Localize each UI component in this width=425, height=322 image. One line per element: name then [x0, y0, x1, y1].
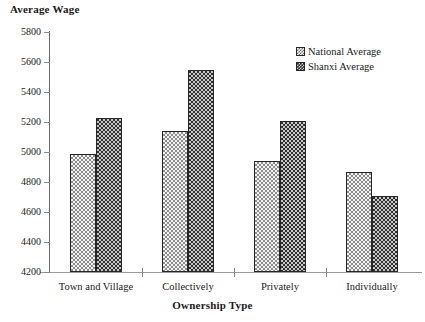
y-axis-title: Average Wage [10, 3, 80, 15]
bar [96, 118, 122, 273]
y-axis-tick-label: 5400 [3, 87, 41, 97]
y-axis-tick-label: 4600 [3, 207, 41, 217]
y-axis-tick-label-wrap: 4800 [0, 177, 41, 187]
legend-item-shanxi[interactable]: Shanxi Average [296, 60, 422, 73]
x-axis-title: Ownership Type [0, 299, 425, 311]
legend-swatch-national-icon [296, 47, 305, 56]
legend-label-national: National Average [308, 46, 381, 57]
y-axis-tick-label: 5600 [3, 57, 41, 67]
y-axis-tick-label: 5800 [3, 27, 41, 37]
y-axis-tick-label: 4400 [3, 237, 41, 247]
x-axis-category-label: Collectively [142, 281, 234, 293]
y-axis-tick-label: 4800 [3, 177, 41, 187]
bar [162, 131, 188, 272]
bar [372, 196, 398, 273]
y-axis-tick-label-wrap: 5600 [0, 57, 41, 67]
y-axis-tick-label-wrap: 4200 [0, 267, 41, 277]
y-axis-tick-label-wrap: 5400 [0, 87, 41, 97]
y-axis-tick-label-wrap: 5800 [0, 27, 41, 37]
y-axis-tick-label-wrap: 4400 [0, 237, 41, 247]
x-axis-line [40, 272, 422, 273]
x-axis-category-label: Individually [326, 281, 418, 293]
x-axis-category-label: Privately [234, 281, 326, 293]
y-axis-tick-label: 5000 [3, 147, 41, 157]
y-axis-tick-label: 4200 [3, 267, 41, 277]
bar [280, 121, 306, 273]
x-axis-category-label: Town and Village [50, 281, 142, 293]
y-axis-tick [44, 272, 50, 273]
legend-label-shanxi: Shanxi Average [308, 61, 374, 72]
bar [70, 154, 96, 273]
legend: National Average Shanxi Average [296, 45, 422, 75]
bar [346, 172, 372, 273]
legend-swatch-shanxi-icon [296, 62, 305, 71]
bar [188, 70, 214, 272]
y-axis-tick-label: 5200 [3, 117, 41, 127]
bar [254, 161, 280, 272]
legend-item-national[interactable]: National Average [296, 45, 422, 58]
y-axis-tick-label-wrap: 5000 [0, 147, 41, 157]
y-axis-tick-label-wrap: 5200 [0, 117, 41, 127]
y-axis-tick-label-wrap: 4600 [0, 207, 41, 217]
bar-chart: Average Wage 580056005400520050004800460… [0, 0, 425, 322]
